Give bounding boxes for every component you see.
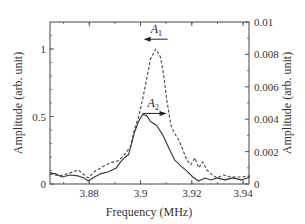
x-tick-label: 3.92 <box>182 187 201 199</box>
y-tick-label: 1 <box>41 43 47 55</box>
y-tick-label: 0.5 <box>32 111 46 123</box>
x-tick-label: 3.9 <box>134 187 148 199</box>
arrow-left-icon <box>144 37 151 42</box>
y2-axis-ticks: 00.0020.0040.0060.0080.01 <box>245 16 279 190</box>
x-axis-label: Frequency (MHz) <box>106 205 192 219</box>
series-group <box>50 49 250 181</box>
annotation-label-a2: A2 <box>147 96 159 112</box>
chart: 3.883.93.923.94 00.51 00.0020.0040.0060.… <box>0 0 305 224</box>
y2-tick-label: 0 <box>254 178 260 190</box>
annotation-label-a1: A1 <box>150 22 162 38</box>
y2-tick-label: 0.006 <box>254 81 279 93</box>
y-axis-label: Amplitude (arb. unit) <box>11 52 25 154</box>
annotation-subscript: 1 <box>158 29 162 38</box>
arrow-right-icon <box>160 111 167 116</box>
y-tick-label: 0 <box>41 178 47 190</box>
x-tick-label: 3.94 <box>233 187 253 199</box>
annotations: A1A2 <box>143 22 168 116</box>
x-tick-label: 3.88 <box>80 187 100 199</box>
y-axis-ticks: 00.51 <box>32 36 54 191</box>
annotation-subscript: 2 <box>155 103 159 112</box>
y2-tick-label: 0.01 <box>254 16 273 28</box>
y2-tick-label: 0.004 <box>254 113 279 125</box>
y2-tick-label: 0.002 <box>254 146 279 158</box>
y2-axis-label: Amplitude (arb. unit) <box>280 52 294 154</box>
y2-tick-label: 0.008 <box>254 48 279 60</box>
